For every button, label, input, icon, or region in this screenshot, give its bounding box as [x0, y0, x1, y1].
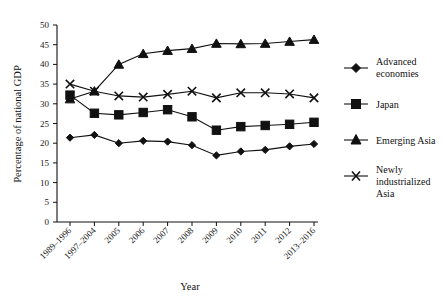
- legend-label: Asia: [376, 188, 395, 199]
- plot-series-layer: [65, 35, 319, 159]
- diamond-marker-icon: [286, 143, 293, 150]
- y-tick-label: 40: [40, 59, 50, 69]
- diamond-marker-icon: [66, 134, 73, 141]
- legend-label: Japan: [376, 99, 399, 110]
- square-marker-icon: [261, 121, 269, 129]
- triangle-marker-icon: [114, 60, 124, 68]
- y-tick-label: 15: [40, 158, 50, 168]
- square-marker-icon: [90, 109, 98, 117]
- square-marker-icon: [285, 120, 293, 128]
- square-marker-icon: [310, 118, 318, 126]
- square-marker-icon: [237, 122, 245, 130]
- x-tick-label: 2012: [273, 225, 293, 245]
- y-axis-title: Percentage of national GDP: [12, 65, 23, 183]
- y-axis-tick-labels: 0 5 10 15 20 25 30 35 40 45 50: [40, 20, 50, 227]
- y-tick-label: 30: [40, 99, 50, 109]
- x-axis-title: Year: [180, 281, 200, 292]
- diamond-marker-icon: [237, 148, 244, 155]
- legend-item-advanced-economies[interactable]: Advanced economies: [344, 56, 419, 79]
- legend-label: economies: [376, 68, 419, 79]
- series-japan: [66, 91, 318, 134]
- x-tick-label: 2008: [176, 225, 196, 245]
- diamond-marker-icon: [164, 138, 171, 145]
- diamond-marker-icon: [352, 64, 361, 73]
- x-tick-label: 2006: [127, 225, 147, 245]
- x-tick-label: 2011: [249, 225, 269, 245]
- y-tick-label: 10: [40, 178, 50, 188]
- legend-item-newly-industrialized-asia[interactable]: Newly industrialized Asia: [344, 164, 430, 199]
- y-axis-ticks: [53, 25, 57, 222]
- diamond-marker-icon: [213, 152, 220, 159]
- square-marker-icon: [352, 100, 361, 109]
- x-tick-label: 2009: [200, 225, 220, 245]
- square-marker-icon: [188, 113, 196, 121]
- series-newly-industrialized-asia: [66, 80, 318, 102]
- x-tick-label: 2010: [224, 225, 244, 245]
- y-tick-label: 45: [40, 40, 50, 50]
- diamond-marker-icon: [262, 146, 269, 153]
- x-marker-icon: [66, 80, 74, 88]
- y-tick-label: 0: [45, 217, 50, 227]
- x-axis-tick-labels: 1989–1996 1997–2004 2005 2006 2007 2008 …: [38, 225, 318, 261]
- x-axis-ticks: [70, 222, 314, 226]
- gdp-line-chart: Percentage of national GDP 0 5 10 15 20 …: [0, 0, 442, 307]
- diamond-marker-icon: [140, 137, 147, 144]
- square-marker-icon: [212, 126, 220, 134]
- chart-figure: Percentage of national GDP 0 5 10 15 20 …: [0, 0, 442, 307]
- legend-label: Emerging Asia: [376, 135, 436, 146]
- square-marker-icon: [163, 106, 171, 114]
- diamond-marker-icon: [310, 140, 317, 147]
- square-marker-icon: [115, 111, 123, 119]
- diamond-marker-icon: [91, 131, 98, 138]
- x-tick-label: 2005: [102, 225, 122, 245]
- x-tick-label: 2007: [151, 225, 171, 245]
- y-tick-label: 50: [40, 20, 50, 30]
- series-advanced-economies: [66, 131, 317, 159]
- square-marker-icon: [139, 108, 147, 116]
- legend-label: industrialized: [376, 176, 430, 187]
- diamond-marker-icon: [115, 140, 122, 147]
- triangle-marker-icon: [351, 135, 361, 145]
- x-marker-icon: [212, 94, 220, 102]
- y-tick-label: 5: [45, 197, 50, 207]
- legend-label: Advanced: [376, 56, 417, 67]
- diamond-marker-icon: [188, 142, 195, 149]
- y-tick-label: 35: [40, 79, 50, 89]
- triangle-marker-icon: [309, 35, 319, 43]
- legend-item-japan[interactable]: Japan: [344, 99, 399, 110]
- y-tick-label: 25: [40, 119, 50, 129]
- legend-item-emerging-asia[interactable]: Emerging Asia: [344, 135, 436, 147]
- legend-label: Newly: [376, 164, 403, 175]
- y-tick-label: 20: [40, 138, 50, 148]
- chart-legend: Advanced economies Japan Emerging Asia N…: [344, 56, 436, 199]
